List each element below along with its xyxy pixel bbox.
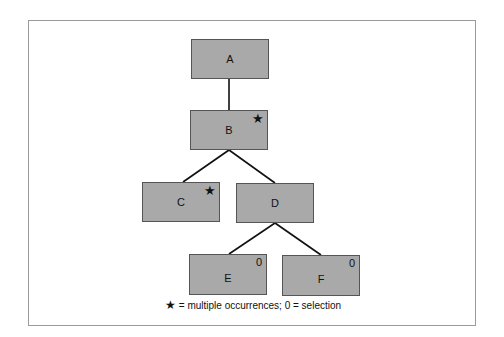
edge-d-e [229,223,275,254]
selection-marker: 0 [349,257,355,269]
edge-d-f [275,223,321,255]
selection-marker: 0 [256,256,262,268]
multiple-occurrence-star-icon: ★ [252,111,264,126]
star-icon: ★ [165,298,176,312]
node-e: E 0 [189,254,267,295]
node-label: A [192,53,268,65]
node-label: F [283,273,359,285]
node-b: B ★ [190,110,268,150]
legend-text: = multiple occurrences; 0 = selection [176,300,341,311]
node-label: E [190,272,266,284]
edge-b-c [183,150,229,182]
node-f: F 0 [282,255,360,296]
node-label: D [237,197,313,209]
legend: ★ = multiple occurrences; 0 = selection [165,298,341,312]
multiple-occurrence-star-icon: ★ [204,183,216,198]
edge-b-d [229,150,275,183]
node-c: C ★ [142,182,220,222]
node-d: D [236,183,314,223]
node-a: A [191,39,269,79]
